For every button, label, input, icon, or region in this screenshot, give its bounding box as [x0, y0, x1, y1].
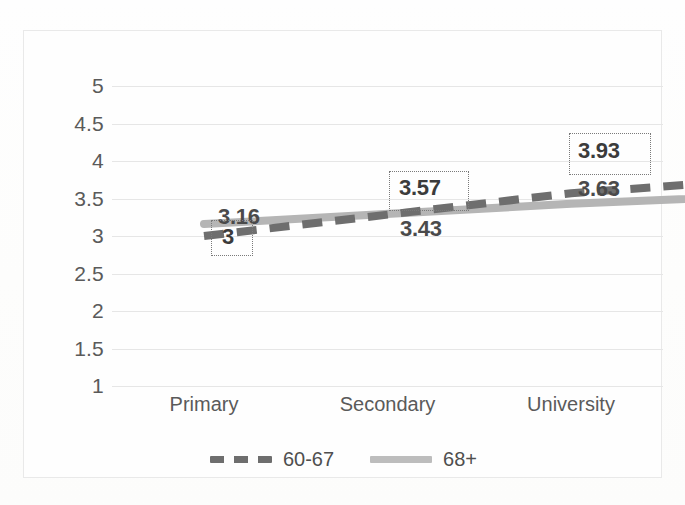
y-tick-label: 2	[46, 299, 104, 323]
y-tick-label: 4	[46, 149, 104, 173]
series-lines	[112, 86, 663, 386]
gridline	[112, 386, 663, 387]
x-tick-label-university: University	[527, 393, 615, 416]
y-tick-label: 3.5	[46, 187, 104, 211]
legend-item-68plus[interactable]: 68+	[370, 448, 477, 471]
x-tick-label-primary: Primary	[170, 393, 239, 416]
x-tick-label-secondary: Secondary	[340, 393, 436, 416]
legend-swatch-solid-icon	[370, 456, 432, 463]
y-tick-label: 2.5	[46, 262, 104, 286]
legend-label-68plus: 68+	[443, 448, 477, 471]
chart-frame[interactable]: 3.16 3.43 3.63 3 3.57 3.93 5 4.5 4 3.5 3…	[23, 30, 662, 478]
y-tick-label: 4.5	[46, 112, 104, 136]
y-axis: 5 4.5 4 3.5 3 2.5 2 1.5 1	[42, 86, 104, 386]
chart-legend[interactable]: 60-67 68+	[24, 439, 663, 479]
legend-item-6067[interactable]: 60-67	[210, 448, 334, 471]
y-tick-label: 3	[46, 224, 104, 248]
x-axis: Primary Secondary University	[112, 393, 663, 425]
legend-label-6067: 60-67	[283, 448, 334, 471]
y-tick-label: 5	[46, 74, 104, 98]
legend-swatch-dashed-icon	[210, 456, 272, 463]
data-label-6067-primary[interactable]: 3	[222, 224, 234, 250]
data-label-6067-university[interactable]: 3.93	[578, 138, 620, 164]
y-tick-label: 1.5	[46, 337, 104, 361]
y-tick-label: 1	[46, 374, 104, 398]
data-label-68plus-university: 3.63	[578, 176, 620, 202]
plot-area[interactable]: 3.16 3.43 3.63 3 3.57 3.93	[112, 86, 663, 386]
data-label-6067-secondary[interactable]: 3.57	[399, 175, 441, 201]
data-label-68plus-secondary: 3.43	[400, 216, 442, 242]
